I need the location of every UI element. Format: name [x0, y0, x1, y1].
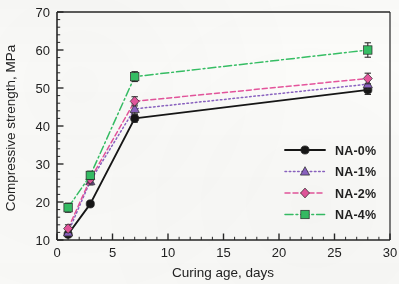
- x-tick-label: 20: [272, 245, 286, 260]
- series-na-4: [64, 43, 372, 212]
- data-point-marker: [301, 210, 309, 218]
- x-tick-label: 0: [53, 245, 60, 260]
- x-axis-major-ticks: [57, 234, 390, 241]
- legend-item-na-1[interactable]: NA-1%: [285, 165, 376, 179]
- y-tick-label: 20: [36, 195, 50, 210]
- x-tick-label: 25: [327, 245, 341, 260]
- y-tick-label: 60: [36, 43, 50, 58]
- x-tick-label: 10: [161, 245, 175, 260]
- data-series-layer: [64, 43, 373, 239]
- y-axis-tick-labels: 10203040506070: [36, 5, 50, 248]
- y-axis-title: Compressive strength, MPa: [3, 44, 18, 211]
- series-line: [68, 79, 368, 229]
- legend-label: NA-1%: [335, 165, 376, 179]
- legend-label: NA-4%: [335, 208, 376, 222]
- plot-frame: [57, 12, 390, 240]
- chart-legend: NA-0%NA-1%NA-2%NA-4%: [285, 144, 376, 223]
- series-na-1: [64, 79, 373, 236]
- series-line: [68, 90, 368, 234]
- x-axis-title: Curing age, days: [172, 265, 274, 280]
- y-tick-label: 30: [36, 157, 50, 172]
- data-point-marker: [86, 171, 94, 179]
- chart-figure: 051015202530 10203040506070 Curing age, …: [0, 0, 399, 284]
- data-point-marker: [301, 146, 309, 154]
- y-tick-label: 50: [36, 81, 50, 96]
- y-tick-label: 70: [36, 5, 50, 20]
- series-na-2: [64, 73, 373, 233]
- y-axis-major-ticks: [57, 12, 64, 240]
- data-point-marker: [64, 204, 72, 212]
- y-tick-label: 40: [36, 119, 50, 134]
- compressive-strength-line-chart: 051015202530 10203040506070 Curing age, …: [0, 0, 399, 284]
- data-point-marker: [130, 96, 139, 106]
- series-na-0: [64, 85, 372, 238]
- x-tick-label: 30: [383, 245, 397, 260]
- data-point-marker: [131, 114, 139, 122]
- data-point-marker: [363, 74, 372, 84]
- data-point-marker: [131, 72, 139, 80]
- data-point-marker: [86, 200, 94, 208]
- x-tick-label: 15: [216, 245, 230, 260]
- data-point-marker: [364, 46, 372, 54]
- x-tick-label: 5: [109, 245, 116, 260]
- legend-item-na-2[interactable]: NA-2%: [285, 187, 376, 201]
- legend-item-na-4[interactable]: NA-4%: [285, 208, 376, 222]
- x-axis-tick-labels: 051015202530: [53, 245, 397, 260]
- legend-label: NA-2%: [335, 187, 376, 201]
- legend-label: NA-0%: [335, 144, 376, 158]
- series-line: [68, 50, 368, 208]
- legend-item-na-0[interactable]: NA-0%: [285, 144, 376, 158]
- data-point-marker: [301, 188, 310, 198]
- y-tick-label: 10: [36, 233, 50, 248]
